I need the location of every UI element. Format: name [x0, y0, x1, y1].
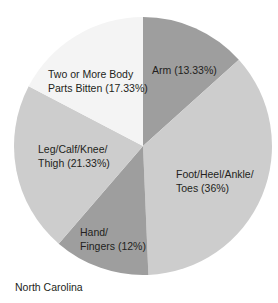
label-leg-line2: Thigh (21.33%) [38, 157, 110, 170]
label-hand-line2: Fingers (12%) [80, 240, 146, 253]
label-hand-line1: Hand/ [80, 226, 108, 239]
label-foot-line1: Foot/Heel/Ankle/ [176, 168, 254, 181]
label-arm: Arm (13.33%) [152, 64, 217, 77]
label-foot-line2: Toes (36%) [176, 182, 229, 195]
label-two-or-more-line2: Parts Bitten (17.33%) [48, 82, 148, 95]
label-two-or-more-line1: Two or More Body [48, 68, 133, 81]
chart-caption: North Carolina [15, 281, 83, 293]
label-leg-line1: Leg/Calf/Knee/ [38, 143, 107, 156]
